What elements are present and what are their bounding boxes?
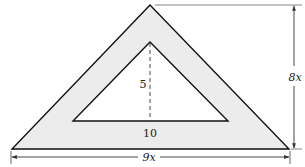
inner-base-label: 10 xyxy=(143,127,157,140)
outer-base-label: 9x xyxy=(142,151,156,164)
triangle-frame-diagram: 5 10 8x 9x xyxy=(0,0,305,167)
outer-height-label: 8x xyxy=(288,71,302,84)
diagram-canvas: 5 10 8x 9x xyxy=(0,0,305,167)
inner-height-label: 5 xyxy=(140,78,147,91)
